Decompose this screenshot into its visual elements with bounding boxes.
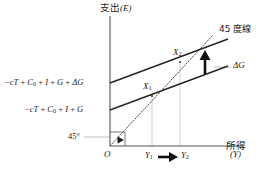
intercept-label-lower: −cT + C0 + I + G: [25, 105, 83, 114]
forty-five-degree-line-label: 45 度線: [219, 19, 251, 35]
y-axis-label-var: (E): [120, 3, 132, 13]
shift-up-arrow: [200, 50, 211, 74]
point-x1-marker: [151, 95, 153, 97]
x-axis-label-var: (Y): [230, 150, 241, 159]
point-label-x1: X1: [143, 82, 152, 92]
delta-g-label: ΔG: [233, 61, 245, 70]
expenditure-line-shifted: [110, 39, 228, 83]
tick-label-y2: Y2: [181, 151, 189, 160]
intercept-label-upper: −cT + C0 + I + G + ΔG: [5, 78, 83, 87]
y-axis-label: 支出(E): [100, 3, 132, 13]
expenditure-line-initial: [110, 66, 228, 110]
origin-label: O: [104, 150, 111, 159]
y-axis-label-text: 支出: [100, 2, 120, 13]
point-x2-marker: [179, 61, 181, 63]
tick-label-y1: Y1: [145, 151, 153, 160]
forty-five-angle-label: 45°: [68, 132, 80, 141]
point-label-x2: X2: [173, 48, 182, 58]
income-shift-arrow: [158, 152, 178, 162]
figure-canvas: 支出(E) 45 度線 −cT + C0 + I + G + ΔG −cT + …: [0, 0, 261, 172]
